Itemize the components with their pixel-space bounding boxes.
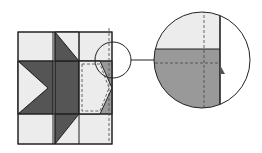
quilt-diagram — [0, 0, 262, 153]
magnified-light-area — [150, 5, 220, 49]
magnified-view — [150, 5, 260, 119]
quilt-block — [18, 32, 112, 144]
center-column-dark — [55, 61, 79, 114]
